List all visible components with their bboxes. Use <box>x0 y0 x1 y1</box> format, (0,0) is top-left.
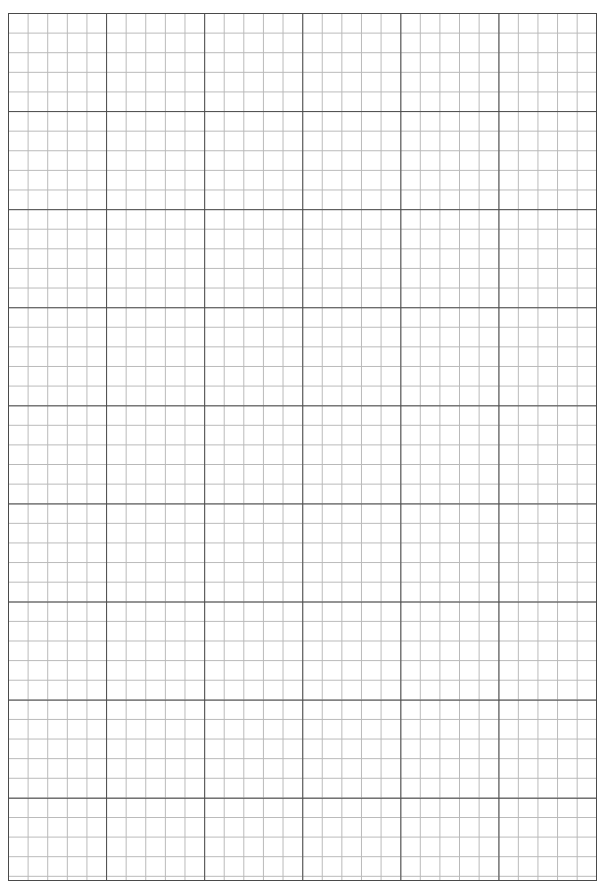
grid-outer-border <box>8 13 597 881</box>
major-grid-lines <box>8 13 597 881</box>
minor-grid-lines <box>8 13 597 881</box>
grid-sheet <box>8 13 597 881</box>
graph-paper-page <box>0 0 606 886</box>
